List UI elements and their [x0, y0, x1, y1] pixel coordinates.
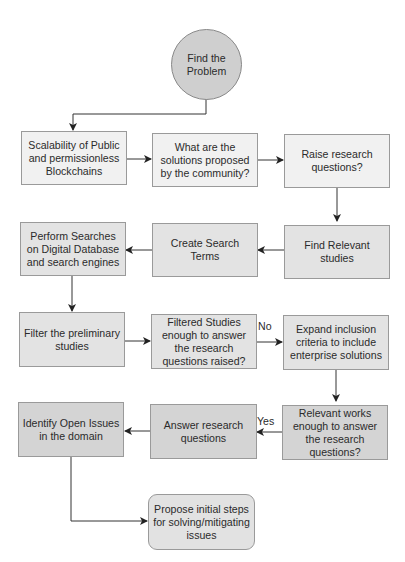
node-label: Create Search Terms: [156, 237, 254, 263]
node-label: Identify Open Issues in the domain: [22, 417, 120, 443]
edge-label-no: No: [258, 320, 272, 332]
node-label: Filter the preliminary studies: [23, 327, 121, 353]
node-create-search-terms: Create Search Terms: [152, 223, 258, 277]
node-answer-questions: Answer research questions: [150, 404, 257, 459]
node-label: Find Relevant studies: [288, 239, 386, 265]
edge-label-yes: Yes: [257, 415, 274, 427]
node-find-relevant-studies: Find Relevant studies: [284, 225, 390, 279]
node-relevant-works-decision: Relevant works enough to answer the rese…: [282, 405, 388, 460]
node-label: Find the Problem: [175, 52, 238, 78]
node-label: Expand inclusion criteria to include ent…: [287, 323, 385, 362]
start-node-find-problem: Find the Problem: [171, 29, 242, 100]
node-filtered-enough-decision: Filtered Studies enough to answer the re…: [151, 314, 257, 369]
edge-n12-n13: [71, 457, 147, 521]
node-identify-open-issues: Identify Open Issues in the domain: [18, 402, 124, 457]
node-expand-inclusion: Expand inclusion criteria to include ent…: [283, 315, 389, 370]
node-label: Relevant works enough to answer the rese…: [286, 407, 384, 459]
node-label: Propose initial steps for solving/mitiga…: [152, 503, 251, 542]
node-solutions-proposed: What are the solutions proposed by the c…: [152, 133, 258, 187]
node-label: What are the solutions proposed by the c…: [156, 141, 254, 180]
node-label: Scalability of Public and permissionless…: [25, 139, 123, 178]
edge-n0-n1: [73, 99, 206, 130]
node-propose-steps: Propose initial steps for solving/mitiga…: [148, 494, 255, 550]
node-label: Answer research questions: [154, 419, 253, 445]
node-filter-preliminary: Filter the preliminary studies: [19, 312, 125, 367]
node-label: Filtered Studies enough to answer the re…: [155, 316, 253, 368]
node-label: Raise research questions?: [288, 148, 386, 174]
node-perform-searches: Perform Searches on Digital Database and…: [20, 222, 126, 276]
node-scalability: Scalability of Public and permissionless…: [21, 131, 127, 185]
node-label: Perform Searches on Digital Database and…: [24, 230, 122, 269]
node-raise-questions: Raise research questions?: [284, 134, 390, 188]
